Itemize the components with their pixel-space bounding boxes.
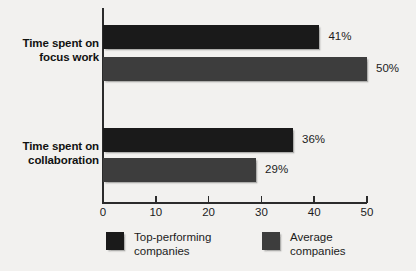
x-axis-tick-label: 50 [347, 206, 387, 218]
legend-swatch-icon-average [262, 232, 280, 250]
value-label-focus-work-top-performing: 41% [328, 30, 351, 42]
legend-label-line2: companies [134, 245, 211, 259]
category-label-collaboration: Time spent on collaboration [0, 139, 99, 167]
x-axis-tick [313, 196, 315, 203]
x-axis-tick-label: 0 [83, 206, 123, 218]
value-label-collaboration-top-performing: 36% [302, 133, 325, 145]
category-label-line2: collaboration [0, 153, 99, 167]
x-axis-tick [102, 196, 104, 203]
x-axis-tick-label: 20 [189, 206, 229, 218]
category-label-focus-work: Time spent on focus work [0, 36, 99, 64]
legend-label-average: Average companies [290, 231, 346, 258]
category-label-line1: Time spent on [23, 37, 99, 49]
category-label-line1: Time spent on [23, 140, 99, 152]
x-axis-tick-label: 40 [294, 206, 334, 218]
x-axis-tick [261, 196, 263, 203]
x-axis-line [102, 202, 367, 204]
category-label-line2: focus work [0, 50, 99, 64]
legend-label-top-performing: Top-performing companies [134, 231, 211, 258]
bar-chart: Time spent on focus work Time spent on c… [0, 0, 416, 271]
bar-focus-work-average [103, 57, 367, 81]
legend-item-average: Average companies [262, 231, 346, 258]
x-axis-tick-label: 10 [136, 206, 176, 218]
x-axis-tick [208, 196, 210, 203]
bar-collaboration-top-performing [103, 128, 293, 152]
legend-label-line1: Top-performing [134, 231, 211, 243]
value-label-collaboration-average: 29% [265, 163, 288, 175]
legend-swatch-icon-top-performing [106, 232, 124, 250]
bar-collaboration-average [103, 158, 256, 182]
legend-label-line1: Average [290, 231, 333, 243]
chart-legend: Top-performing companies Average compani… [0, 231, 416, 271]
value-label-focus-work-average: 50% [376, 62, 399, 74]
x-axis-tick-label: 30 [241, 206, 281, 218]
legend-item-top-performing: Top-performing companies [106, 231, 211, 258]
legend-label-line2: companies [290, 245, 346, 259]
x-axis-tick [366, 196, 368, 203]
x-axis-tick [155, 196, 157, 203]
bar-focus-work-top-performing [103, 25, 319, 49]
